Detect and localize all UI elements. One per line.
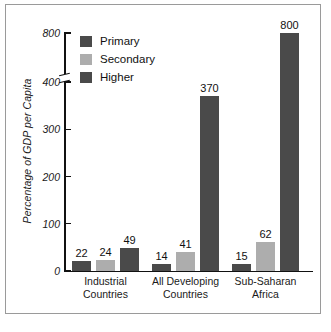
legend-item-secondary: Secondary xyxy=(80,50,155,68)
legend-swatch-secondary-icon xyxy=(80,54,92,65)
legend-swatch-higher-icon xyxy=(80,72,92,83)
bar-value-label: 14 xyxy=(155,250,167,262)
bar-higher-group-1[interactable]: 49 xyxy=(120,248,139,271)
category-label-line-1: Sub-Saharan xyxy=(206,275,326,288)
category-label-line-2: Africa xyxy=(206,288,326,301)
bar-secondary-group-2[interactable]: 41 xyxy=(176,252,195,271)
bar-primary-group-3[interactable]: 15 xyxy=(232,264,251,271)
y-tick-label-300: 300 xyxy=(42,123,60,135)
bar-value-label: 62 xyxy=(259,228,271,240)
bar-value-label: 24 xyxy=(99,246,111,258)
bar-value-label: 49 xyxy=(123,234,135,246)
bar-primary-group-1[interactable]: 22 xyxy=(72,261,91,271)
legend-item-higher: Higher xyxy=(80,68,155,86)
legend-label-higher: Higher xyxy=(100,71,134,83)
legend-label-primary: Primary xyxy=(100,35,140,47)
bar-value-label: 41 xyxy=(179,238,191,250)
bar-value-label: 370 xyxy=(200,82,218,94)
chart-frame: Percentage of GDP per Capita 01002003004… xyxy=(5,4,321,314)
chart-figure: Percentage of GDP per Capita 01002003004… xyxy=(0,0,331,332)
bar-value-label: 22 xyxy=(75,247,87,259)
category-label-3: Sub-SaharanAfrica xyxy=(206,275,326,300)
legend-label-secondary: Secondary xyxy=(100,53,155,65)
bar-secondary-group-3[interactable]: 62 xyxy=(256,242,275,271)
bar-higher-group-2[interactable]: 370 xyxy=(200,96,219,271)
bar-value-label: 15 xyxy=(235,250,247,262)
bar-value-label: 800 xyxy=(280,19,298,31)
y-tick-label-100: 100 xyxy=(42,218,60,230)
y-tick-label-800: 800 xyxy=(42,27,60,39)
y-tick-label-400: 400 xyxy=(42,76,60,88)
legend-swatch-primary-icon xyxy=(80,36,92,47)
bar-secondary-group-1[interactable]: 24 xyxy=(96,260,115,271)
y-axis-title: Percentage of GDP per Capita xyxy=(21,66,33,236)
bar-group-2: 1441370 xyxy=(152,33,219,271)
chart-legend: Primary Secondary Higher xyxy=(80,32,155,86)
bar-group-3: 1562800 xyxy=(232,33,299,271)
bar-higher-group-3[interactable]: 800 xyxy=(280,33,299,271)
legend-item-primary: Primary xyxy=(80,32,155,50)
bar-primary-group-2[interactable]: 14 xyxy=(152,264,171,271)
y-tick-label-200: 200 xyxy=(42,171,60,183)
